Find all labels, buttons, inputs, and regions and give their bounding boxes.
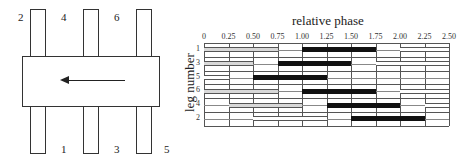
stance-bar-leg-2 (351, 116, 425, 121)
stance-bar-leg-3 (278, 61, 352, 66)
leg-3 (83, 104, 99, 154)
grid-hline (204, 126, 449, 127)
row-label-leg-4: 4 (190, 99, 200, 108)
x-tick-label: 2.00 (393, 32, 407, 41)
stance-bar-leg-6 (302, 89, 376, 94)
chart-title: relative phase (292, 13, 364, 29)
leg-label-2: 2 (18, 11, 24, 23)
stance-bar-leg-1 (302, 47, 376, 52)
leg-label-4: 4 (61, 11, 67, 23)
x-tick-label: 0.75 (271, 32, 285, 41)
x-tick-label: 2.50 (442, 32, 456, 41)
bar-leg-3-shaded (204, 61, 253, 66)
row-label-leg-5: 5 (190, 72, 200, 81)
leg-2 (30, 9, 46, 59)
leg-label-6: 6 (114, 11, 120, 23)
x-tick-label: 2.25 (418, 32, 432, 41)
x-tick-label: 0.25 (222, 32, 236, 41)
leg-label-3: 3 (114, 143, 120, 155)
row-label-leg-6: 6 (190, 85, 200, 94)
bar-leg-1-outlined (400, 47, 449, 52)
leg-1 (30, 104, 46, 154)
x-tick-label: 1.50 (344, 32, 358, 41)
arrow-left-icon (60, 76, 69, 84)
row-label-leg-3: 3 (190, 58, 200, 67)
leg-label-5: 5 (164, 143, 170, 155)
bar-leg-3-outlined (376, 61, 450, 66)
bar-leg-4-shaded (229, 103, 303, 108)
bar-leg-6-shaded (204, 89, 278, 94)
grid-vline (449, 43, 450, 126)
bar-leg-5-outlined (204, 75, 229, 80)
leg-6 (136, 9, 152, 59)
grid-hline (204, 84, 449, 85)
row-label-leg-2: 2 (190, 113, 200, 122)
leg-label-1: 1 (61, 143, 67, 155)
body (22, 56, 160, 107)
x-tick-label: 1.25 (320, 32, 334, 41)
grid-hline (204, 71, 449, 72)
leg-4 (83, 9, 99, 59)
stance-bar-leg-4 (327, 103, 401, 108)
x-tick-label: 1.75 (369, 32, 383, 41)
bar-leg-1-shaded (204, 47, 278, 52)
row-midline (204, 78, 449, 79)
grid-hline (204, 57, 449, 58)
grid-hline (204, 43, 449, 44)
bar-leg-2-outlined (253, 116, 327, 121)
direction-arrow-line (66, 80, 125, 81)
grid-hline (204, 112, 449, 113)
leg-5 (136, 104, 152, 154)
x-tick-label: 0 (202, 32, 206, 41)
x-tick-label: 0.50 (246, 32, 260, 41)
stance-bar-leg-5 (253, 75, 327, 80)
x-tick-label: 1.00 (295, 32, 309, 41)
bar-leg-6-outlined (400, 89, 449, 94)
row-label-leg-1: 1 (190, 44, 200, 53)
grid-hline (204, 98, 449, 99)
bar-leg-4-outlined (425, 103, 450, 108)
